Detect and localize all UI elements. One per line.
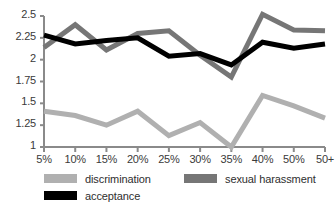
legend-label-sexual-harassment: sexual harassment [225,173,316,185]
y-axis-tick-label: 1.75 [0,74,36,86]
x-axis-tick-label: 35% [214,153,248,165]
x-axis-tick-label: 50% [277,153,311,165]
y-axis-tick-label: 1 [0,139,36,151]
series-lines [44,14,325,147]
y-axis-tick-label: 2.5 [0,8,36,20]
line-chart: 11.251.51.7522.252.5 5%10%15%20%25%30%35… [0,0,335,209]
legend-swatch-sexual-harassment [184,174,217,183]
x-axis-tick-label: 15% [89,153,123,165]
legend-item-sexual-harassment[interactable]: sexual harassment [184,173,316,185]
y-axis-tick-label: 1.5 [0,95,36,107]
x-axis-tick-label: 20% [121,153,155,165]
legend-label-acceptance: acceptance [85,190,140,202]
x-axis-tick-label: 5% [27,153,61,165]
legend-row: discrimination sexual harassment [44,170,332,187]
legend-item-acceptance[interactable]: acceptance [44,190,184,202]
x-axis-tick-label: 10% [58,153,92,165]
y-axis-tick-label: 2 [0,52,36,64]
legend-row: acceptance [44,187,332,204]
y-axis-tick-label: 2.25 [0,30,36,42]
legend-swatch-discrimination [44,174,77,183]
legend-label-discrimination: discrimination [85,173,151,185]
legend-item-discrimination[interactable]: discrimination [44,173,184,185]
x-axis-tick-label: 25% [152,153,186,165]
legend-swatch-acceptance [44,191,77,200]
x-axis-tick-label: 40% [246,153,280,165]
chart-legend: discrimination sexual harassment accepta… [44,170,332,204]
x-axis-tick-label: 30% [183,153,217,165]
x-axis-tick-label: 50+ [308,153,335,165]
y-axis-tick-label: 1.25 [0,117,36,129]
